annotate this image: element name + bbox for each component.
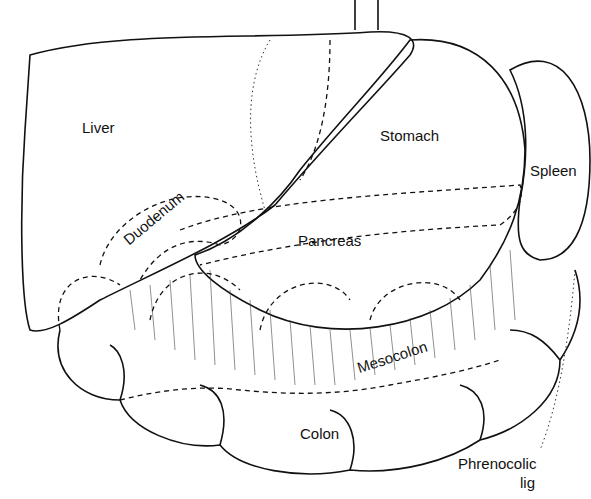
label-stomach: Stomach xyxy=(380,127,439,144)
label-pancreas: Pancreas xyxy=(298,232,361,249)
label-phrenocolic-lig: lig xyxy=(520,474,535,491)
anatomy-diagram: Liver Stomach Spleen Duodenum Pancreas M… xyxy=(0,0,591,499)
label-phrenocolic: Phrenocolic xyxy=(458,455,536,472)
organ-outlines xyxy=(0,0,591,499)
label-colon: Colon xyxy=(300,425,339,442)
label-liver: Liver xyxy=(82,119,115,136)
label-spleen: Spleen xyxy=(530,162,577,179)
